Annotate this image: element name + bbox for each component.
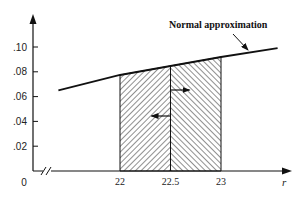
- y-axis-arrow-icon: [30, 14, 37, 24]
- y-tick-label: .08: [13, 66, 27, 77]
- normal-approximation-chart: 0.02.04.06.08.10 2222.523 r Normal appro…: [0, 0, 303, 200]
- shaded-region-right-half: [171, 57, 222, 171]
- shaded-regions: [120, 57, 221, 171]
- x-tick-label: 22: [115, 176, 125, 187]
- x-tick-label: 22.5: [162, 176, 180, 187]
- y-tick-label: .10: [13, 42, 27, 53]
- y-tick-label: .02: [13, 141, 27, 152]
- y-tick-label: 0: [21, 177, 27, 188]
- annotation: Normal approximation: [169, 19, 268, 50]
- x-axis-title: r: [282, 176, 287, 188]
- annotation-arrow: [233, 34, 248, 50]
- y-ticks: 0.02.04.06.08.10: [13, 42, 38, 189]
- annotation-label: Normal approximation: [169, 19, 268, 30]
- y-tick-label: .04: [13, 116, 27, 127]
- shaded-region-left-half: [120, 66, 171, 171]
- x-axis-arrow-icon: [282, 168, 292, 175]
- x-tick-label: 23: [216, 176, 226, 187]
- y-tick-label: .06: [13, 91, 27, 102]
- x-ticks: 2222.523: [115, 176, 226, 187]
